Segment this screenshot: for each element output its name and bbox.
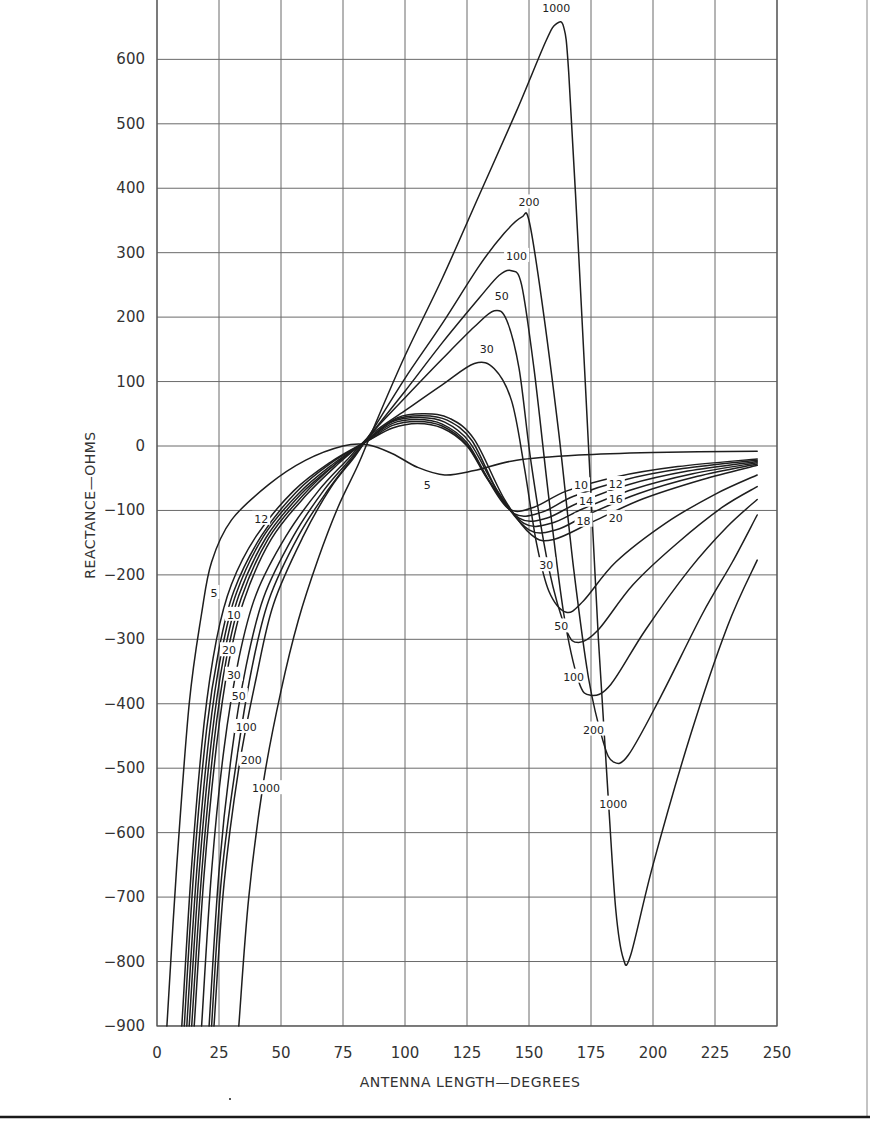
curve-12 xyxy=(184,421,757,1026)
y-tick-label: 400 xyxy=(116,179,145,197)
curve-label: 100 xyxy=(236,721,257,734)
curve-1000 xyxy=(239,22,757,1026)
curve-label: 12 xyxy=(609,478,623,491)
curve-label: 200 xyxy=(519,196,540,209)
x-tick-label: 100 xyxy=(391,1044,420,1062)
y-tick-label: −300 xyxy=(104,630,145,648)
curve-label: 30 xyxy=(539,559,553,572)
curve-label: 100 xyxy=(563,671,584,684)
x-tick-label: 25 xyxy=(209,1044,228,1062)
x-tick-label: 125 xyxy=(453,1044,482,1062)
y-tick-label: −100 xyxy=(104,501,145,519)
y-tick-label: 600 xyxy=(116,50,145,68)
x-tick-label: 0 xyxy=(152,1044,162,1062)
curve-label: 100 xyxy=(506,250,527,263)
curve-label: 10 xyxy=(227,609,241,622)
curve-label: 16 xyxy=(609,493,623,506)
curve-label: 30 xyxy=(227,669,241,682)
curve-labels-group: 1000200100503051012141618203050100200100… xyxy=(209,0,630,811)
reactance-chart: 1000200100503051012141618203050100200100… xyxy=(0,0,870,1146)
curve-label: 10 xyxy=(574,479,588,492)
y-tick-label: −600 xyxy=(104,824,145,842)
y-tick-label: 100 xyxy=(116,373,145,391)
curve-100 xyxy=(212,270,758,1026)
curve-200 xyxy=(214,213,757,1026)
y-tick-label: 500 xyxy=(116,115,145,133)
curve-label: 50 xyxy=(554,620,568,633)
curve-label: 1000 xyxy=(542,2,570,15)
x-tick-label: 75 xyxy=(333,1044,352,1062)
curve-label: 12 xyxy=(254,513,268,526)
curve-label: 18 xyxy=(577,515,591,528)
curve-label: 200 xyxy=(241,754,262,767)
x-axis-tick-labels: 0255075100125150175200225250 xyxy=(152,1044,791,1062)
curve-18 xyxy=(192,416,758,1026)
curve-label: 50 xyxy=(495,290,509,303)
chart-grid xyxy=(157,0,777,1026)
curve-label: 30 xyxy=(480,343,494,356)
y-tick-label: −500 xyxy=(104,759,145,777)
x-tick-label: 200 xyxy=(639,1044,668,1062)
x-tick-label: 250 xyxy=(763,1044,792,1062)
x-tick-label: 50 xyxy=(271,1044,290,1062)
y-tick-label: −700 xyxy=(104,888,145,906)
y-tick-label: 700 xyxy=(116,0,145,4)
scan-speck xyxy=(229,1098,231,1100)
x-axis-title: ANTENNA LENGTH—DEGREES xyxy=(360,1074,581,1090)
curve-label: 50 xyxy=(232,690,246,703)
curve-label: 5 xyxy=(211,587,218,600)
x-tick-label: 225 xyxy=(701,1044,730,1062)
y-tick-label: 200 xyxy=(116,308,145,326)
y-tick-label: −200 xyxy=(104,566,145,584)
y-tick-label: −900 xyxy=(104,1017,145,1035)
x-tick-label: 175 xyxy=(577,1044,606,1062)
curve-label: 200 xyxy=(583,724,604,737)
y-tick-label: −800 xyxy=(104,953,145,971)
y-tick-label: 300 xyxy=(116,244,145,262)
curve-20 xyxy=(194,414,757,1026)
x-tick-label: 150 xyxy=(515,1044,544,1062)
curve-label: 20 xyxy=(609,512,623,525)
curve-label: 14 xyxy=(579,495,593,508)
y-tick-label: −400 xyxy=(104,695,145,713)
y-axis-title: REACTANCE—OHMS xyxy=(82,431,98,578)
curve-label: 1000 xyxy=(252,782,280,795)
y-tick-label: 0 xyxy=(135,437,145,455)
curve-5 xyxy=(167,444,757,1026)
y-axis-tick-labels: 7006005004003002001000−100−200−300−400−5… xyxy=(104,0,145,1035)
curve-label: 1000 xyxy=(599,798,627,811)
curve-label: 20 xyxy=(222,644,236,657)
curve-label: 5 xyxy=(424,479,431,492)
